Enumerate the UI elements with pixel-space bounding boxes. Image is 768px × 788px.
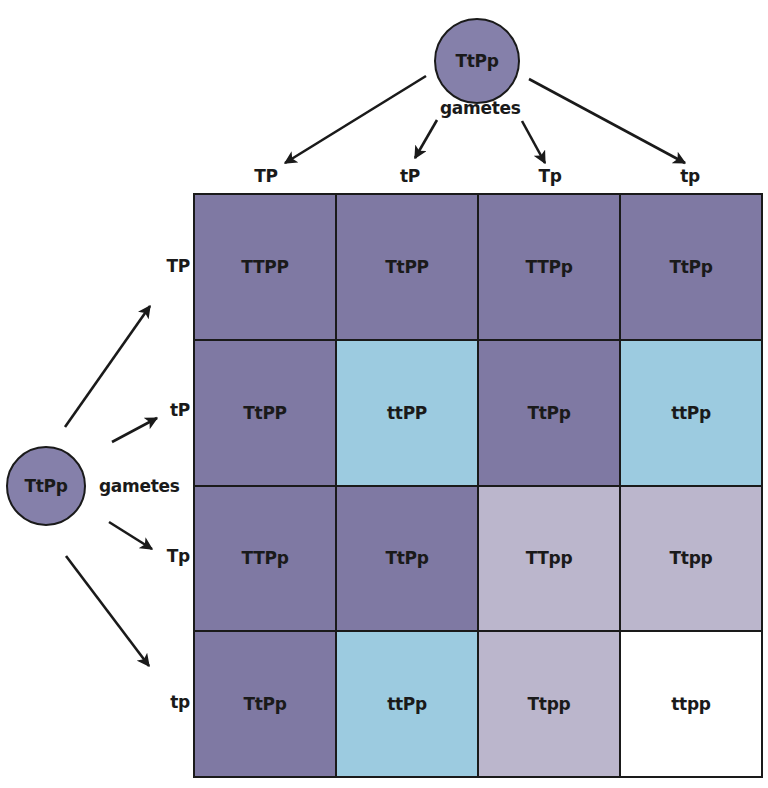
cell-r1-c2: TtPP	[337, 195, 477, 339]
column-gamete-Tp: Tp	[520, 166, 580, 186]
cell-genotype: TTPp	[241, 548, 288, 568]
column-gamete-TP: TP	[236, 166, 296, 186]
cell-genotype: ttPp	[671, 403, 711, 423]
cell-genotype: TTpp	[526, 548, 573, 568]
cell-genotype: TtPp	[669, 257, 712, 277]
gametes-left-label: gametes	[99, 476, 180, 496]
cell-genotype: TtPP	[243, 403, 286, 423]
cell-r4-c4: ttpp	[621, 632, 761, 776]
row-gamete-tP: tP	[140, 400, 190, 420]
arrow-left-to-tP	[112, 418, 157, 442]
cell-r4-c2: ttPp	[337, 632, 477, 776]
cell-r2-c4: ttPp	[621, 341, 761, 485]
cell-genotype: Ttpp	[670, 548, 713, 568]
punnett-square: TTPP TtPP TTPp TtPp TtPP ttPP TtPp ttPp …	[193, 193, 763, 778]
cell-genotype: TtPp	[527, 403, 570, 423]
cell-r3-c1: TTPp	[195, 487, 335, 631]
cell-r3-c2: TtPp	[337, 487, 477, 631]
cell-r2-c2: ttPP	[337, 341, 477, 485]
cell-genotype: ttPP	[387, 403, 427, 423]
cell-r1-c4: TtPp	[621, 195, 761, 339]
parent-top-genotype: TtPp	[455, 51, 498, 71]
arrow-top-to-tp	[529, 79, 685, 163]
row-gamete-Tp: Tp	[140, 546, 190, 566]
cell-r3-c4: Ttpp	[621, 487, 761, 631]
cell-r4-c1: TtPp	[195, 632, 335, 776]
row-gamete-tp: tp	[140, 692, 190, 712]
cell-r4-c3: Ttpp	[479, 632, 619, 776]
cell-genotype: Ttpp	[528, 694, 571, 714]
cell-genotype: ttpp	[671, 694, 710, 714]
column-gamete-tp: tp	[660, 166, 720, 186]
cell-genotype: TtPp	[243, 694, 286, 714]
parent-left-genotype: TtPp	[24, 476, 67, 496]
cell-genotype: TtPp	[385, 548, 428, 568]
parent-left-circle: TtPp	[6, 446, 86, 526]
arrow-top-to-Tp	[522, 121, 545, 163]
arrow-left-to-TP	[65, 306, 150, 427]
cell-r1-c3: TTPp	[479, 195, 619, 339]
row-gamete-TP: TP	[140, 256, 190, 276]
arrow-top-to-tP	[415, 120, 437, 158]
cell-r2-c3: TtPp	[479, 341, 619, 485]
arrow-left-to-tp	[66, 556, 149, 666]
gametes-top-label: gametes	[440, 98, 521, 118]
cell-r2-c1: TtPP	[195, 341, 335, 485]
cell-r1-c1: TTPP	[195, 195, 335, 339]
cell-genotype: TtPP	[385, 257, 428, 277]
arrow-left-to-Tp	[109, 522, 152, 549]
parent-top-circle: TtPp	[434, 18, 520, 104]
column-gamete-tP: tP	[380, 166, 440, 186]
cell-genotype: ttPp	[387, 694, 427, 714]
arrow-top-to-TP	[285, 76, 426, 163]
cell-r3-c3: TTpp	[479, 487, 619, 631]
cell-genotype: TTPP	[241, 257, 288, 277]
cell-genotype: TTPp	[525, 257, 572, 277]
